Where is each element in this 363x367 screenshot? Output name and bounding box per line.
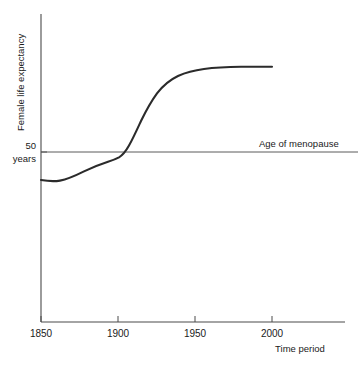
age-of-menopause-label: Age of menopause: [259, 138, 339, 149]
life-expectancy-chart: Female life expectancy Time period 50 ye…: [0, 0, 363, 367]
x-tick-label-1950: 1950: [184, 328, 207, 339]
x-tick-label-1900: 1900: [107, 328, 130, 339]
y-marker-unit: years: [13, 153, 36, 164]
chart-background: [0, 0, 363, 367]
x-tick-label-2000: 2000: [261, 328, 284, 339]
x-tick-label-1850: 1850: [30, 328, 53, 339]
y-marker-value: 50: [25, 140, 36, 151]
y-axis-title: Female life expectancy: [15, 34, 26, 131]
x-axis-title: Time period: [275, 343, 325, 354]
